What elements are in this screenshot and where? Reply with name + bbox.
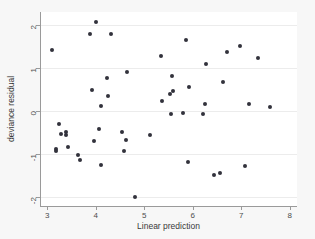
data-point	[94, 20, 98, 24]
data-point	[88, 32, 92, 36]
data-point	[59, 132, 63, 136]
gridline-y	[40, 25, 297, 26]
x-axis-title: Linear prediction	[40, 222, 297, 231]
data-point	[218, 171, 222, 175]
data-point	[159, 54, 163, 58]
data-point	[168, 92, 172, 96]
data-point	[106, 94, 110, 98]
data-point	[64, 133, 68, 137]
x-tick-label: 8	[287, 212, 291, 220]
y-tick-label: -1	[30, 154, 38, 161]
data-point	[186, 160, 190, 164]
data-point	[184, 38, 188, 42]
data-point	[125, 70, 129, 74]
x-tick-label: 5	[142, 212, 146, 220]
x-axis-line	[40, 206, 297, 207]
data-point	[97, 127, 101, 131]
plot-area: 210-1-2 345678	[40, 12, 297, 206]
data-point	[90, 88, 94, 92]
data-point	[99, 104, 103, 108]
y-axis-title: deviance residual	[6, 12, 17, 206]
data-point	[268, 105, 272, 109]
y-tick-label: 1	[30, 68, 38, 72]
x-tick-label: 3	[45, 212, 49, 220]
data-point	[238, 44, 242, 48]
data-point	[160, 99, 164, 103]
data-point	[99, 163, 103, 167]
data-point	[256, 56, 260, 60]
data-point	[201, 112, 205, 116]
data-point	[92, 139, 96, 143]
gridline-y	[40, 197, 297, 198]
x-tick-label: 7	[239, 212, 243, 220]
data-point	[221, 80, 225, 84]
data-point	[204, 62, 208, 66]
data-point	[133, 195, 137, 199]
data-point	[243, 164, 247, 168]
data-point	[50, 48, 54, 52]
data-point	[76, 153, 80, 157]
data-point	[169, 112, 173, 116]
data-point	[170, 74, 174, 78]
data-point	[109, 32, 113, 36]
scatter-plot-figure: 210-1-2 345678 deviance residual Linear …	[0, 0, 315, 239]
data-point	[148, 133, 152, 137]
data-point	[105, 76, 109, 80]
y-axis-line	[40, 12, 41, 206]
data-point	[120, 130, 124, 134]
data-point	[203, 102, 207, 106]
data-point	[171, 89, 175, 93]
x-tick-label: 4	[94, 212, 98, 220]
data-point	[247, 102, 251, 106]
gridline-y	[40, 68, 297, 69]
data-point	[66, 145, 70, 149]
data-point	[78, 158, 82, 162]
data-point	[124, 138, 128, 142]
data-point	[212, 173, 216, 177]
data-point	[122, 149, 126, 153]
data-point	[54, 149, 58, 153]
y-tick-label: 0	[30, 111, 38, 115]
data-point	[187, 85, 191, 89]
x-tick-label: 6	[191, 212, 195, 220]
y-tick-label: 2	[30, 25, 38, 29]
data-point	[225, 50, 229, 54]
y-tick-label: -2	[30, 197, 38, 204]
data-point	[181, 111, 185, 115]
data-point	[57, 122, 61, 126]
